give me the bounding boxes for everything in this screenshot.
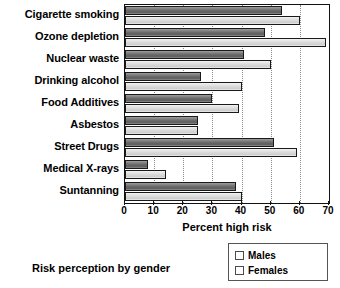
x-tick-label: 20 <box>177 205 188 216</box>
bar-males <box>125 160 148 169</box>
legend-swatch-males-icon <box>235 251 244 260</box>
category-label: Cigarette smoking <box>25 9 119 20</box>
category-label: Ozone depletion <box>35 31 119 42</box>
bar-group <box>125 28 329 50</box>
bar-females <box>125 60 271 69</box>
x-tick-label: 40 <box>235 205 246 216</box>
x-axis-title: Percent high risk <box>124 221 330 233</box>
bar-females <box>125 148 297 157</box>
x-tick-label: 10 <box>148 205 159 216</box>
legend-swatch-females-icon <box>235 266 244 275</box>
bar-group <box>125 94 329 116</box>
bar-rows <box>125 5 329 203</box>
bar-males <box>125 72 201 81</box>
legend-label-females: Females <box>248 266 288 276</box>
bar-females <box>125 170 166 179</box>
bar-group <box>125 160 329 182</box>
legend: Males Females <box>228 243 328 281</box>
bar-females <box>125 82 242 91</box>
chart-figure: Cigarette smokingOzone depletionNuclear … <box>0 0 340 288</box>
bar-females <box>125 16 300 25</box>
category-label: Medical X-rays <box>43 163 119 174</box>
bar-males <box>125 6 282 15</box>
x-tick-label: 0 <box>121 205 127 216</box>
x-tick-label: 70 <box>322 205 333 216</box>
plot-area <box>124 4 330 204</box>
bar-males <box>125 182 236 191</box>
category-label: Street Drugs <box>54 141 119 152</box>
x-axis: 010203040506070 <box>124 205 330 221</box>
x-tick-label: 50 <box>264 205 275 216</box>
bar-group <box>125 72 329 94</box>
bar-group <box>125 50 329 72</box>
bar-males <box>125 50 244 59</box>
legend-item-females: Females <box>235 263 327 278</box>
category-label: Suntanning <box>60 185 120 196</box>
figure-caption: Risk perception by gender <box>32 262 170 274</box>
x-tick-label: 60 <box>293 205 304 216</box>
category-axis-labels: Cigarette smokingOzone depletionNuclear … <box>0 4 122 204</box>
category-label: Asbestos <box>70 119 119 130</box>
bar-males <box>125 94 212 103</box>
bar-males <box>125 116 198 125</box>
bar-group <box>125 138 329 160</box>
bar-males <box>125 28 265 37</box>
bar-group <box>125 6 329 28</box>
x-tick-label: 30 <box>206 205 217 216</box>
bar-males <box>125 138 274 147</box>
bar-females <box>125 104 239 113</box>
category-label: Nuclear waste <box>46 53 119 64</box>
legend-item-males: Males <box>235 248 327 263</box>
bar-females <box>125 126 198 135</box>
bar-females <box>125 192 242 201</box>
category-label: Drinking alcohol <box>34 75 119 86</box>
category-label: Food Additives <box>41 97 119 108</box>
bar-females <box>125 38 326 47</box>
bar-group <box>125 116 329 138</box>
legend-label-males: Males <box>248 251 276 261</box>
